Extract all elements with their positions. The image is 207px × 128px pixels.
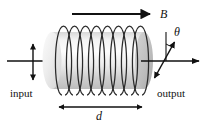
output-label: output xyxy=(157,88,185,99)
diagram-canvas xyxy=(0,0,207,128)
rotation-angle-label: θ xyxy=(174,26,180,38)
length-label: d xyxy=(96,110,102,122)
cylinder-left-cap xyxy=(43,32,62,89)
faraday-rotation-diagram: input output B d θ xyxy=(0,0,207,128)
input-label: input xyxy=(10,88,33,99)
output-polarization-arrow xyxy=(155,42,175,78)
magnetic-field-label: B xyxy=(160,8,167,20)
